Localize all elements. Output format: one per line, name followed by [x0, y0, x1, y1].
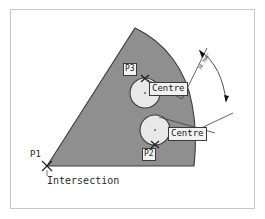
- circle-p2-center-dot: [154, 129, 156, 131]
- screenshot-root: P3 P2 P1 Centre Centre Intersection 38.7…: [0, 0, 265, 219]
- sector-shape[interactable]: [47, 28, 195, 166]
- circle-p3-center-dot: [144, 92, 146, 94]
- cad-drawing-canvas[interactable]: [0, 0, 265, 219]
- label-p2[interactable]: P2: [142, 148, 156, 161]
- dimension-arrowhead-bottom: [224, 95, 229, 102]
- label-centre-lower[interactable]: Centre: [168, 127, 207, 141]
- label-centre-upper[interactable]: Centre: [149, 82, 188, 96]
- label-intersection: Intersection: [47, 176, 119, 186]
- label-p3[interactable]: P3: [123, 63, 137, 76]
- label-p1: P1: [30, 150, 41, 159]
